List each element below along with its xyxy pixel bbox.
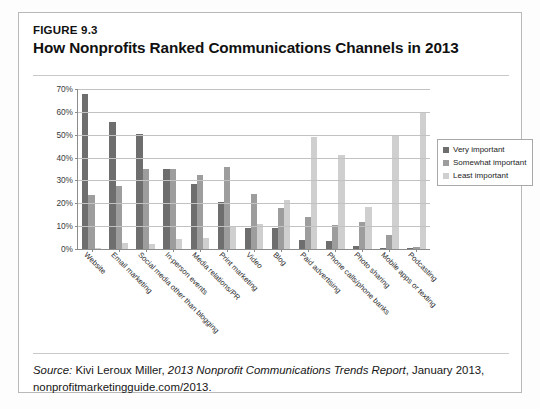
bar-group	[213, 89, 240, 249]
bar-group	[132, 89, 159, 249]
bar-group	[376, 89, 403, 249]
source-author: Kivi Leroux Miller,	[72, 364, 168, 376]
legend-item-label: Very important	[453, 145, 505, 154]
bar-groups	[78, 89, 430, 249]
bar	[311, 137, 317, 249]
bar	[230, 227, 236, 249]
bar-group	[295, 89, 322, 249]
chart-container: 0%10%20%30%40%50%60%70% WebsiteEmail mar…	[33, 79, 509, 349]
source-label: Source:	[33, 364, 72, 376]
source-divider	[33, 353, 509, 354]
bar-group	[78, 89, 105, 249]
bar	[95, 248, 101, 249]
gridline	[78, 112, 430, 113]
x-axis-label: Video	[245, 251, 264, 270]
x-axis-labels: WebsiteEmail marketingSocial media other…	[77, 251, 429, 347]
bar-group	[268, 89, 295, 249]
bar-group	[240, 89, 267, 249]
header-divider	[33, 75, 509, 76]
y-axis-tick-mark	[75, 158, 78, 159]
y-axis-tick-label: 60%	[56, 107, 73, 117]
x-axis-label: Blog	[272, 251, 288, 267]
x-axis-label: Media relations/PR	[190, 251, 241, 302]
y-axis-tick-mark	[75, 203, 78, 204]
bar	[284, 200, 290, 249]
y-axis-tick-label: 30%	[56, 175, 73, 185]
y-axis-tick-label: 70%	[56, 84, 73, 94]
legend-swatch-icon	[443, 173, 449, 179]
y-axis-tick-mark	[75, 135, 78, 136]
legend-item: Least important	[443, 171, 526, 180]
legend-swatch-icon	[443, 160, 449, 166]
y-axis-tick-label: 10%	[56, 221, 73, 231]
gridline	[78, 135, 430, 136]
bar	[116, 186, 122, 249]
y-axis-tick-label: 0%	[61, 244, 73, 254]
legend-swatch-icon	[443, 147, 449, 153]
y-axis-tick-mark	[75, 249, 78, 250]
legend-item: Somewhat important	[443, 158, 526, 167]
y-axis-tick-label: 20%	[56, 198, 73, 208]
bar-group	[105, 89, 132, 249]
chart-legend: Very importantSomewhat importantLeast im…	[437, 139, 533, 186]
gridline	[78, 180, 430, 181]
bar-group	[349, 89, 376, 249]
figure-number: FIGURE 9.3	[33, 24, 507, 37]
source-report-title: 2013 Nonprofit Communications Trends Rep…	[168, 364, 406, 376]
gridline	[78, 89, 430, 90]
bar	[176, 239, 182, 249]
source-note: Source: Kivi Leroux Miller, 2013 Nonprof…	[33, 362, 503, 395]
bar-group	[159, 89, 186, 249]
gridline	[78, 203, 430, 204]
legend-item-label: Somewhat important	[453, 158, 526, 167]
bar	[392, 136, 398, 249]
gridline	[78, 158, 430, 159]
x-axis-label: Website	[82, 251, 107, 276]
y-axis-tick-mark	[75, 226, 78, 227]
bar-group	[186, 89, 213, 249]
gridline	[78, 226, 430, 227]
legend-item: Very important	[443, 145, 526, 154]
legend-item-label: Least important	[453, 171, 508, 180]
bar	[338, 155, 344, 249]
y-axis-tick-mark	[75, 89, 78, 90]
bar	[122, 243, 128, 249]
bar	[203, 238, 209, 249]
y-axis-tick-mark	[75, 180, 78, 181]
figure-title: How Nonprofits Ranked Communications Cha…	[33, 39, 507, 57]
bar-group	[322, 89, 349, 249]
bar	[365, 207, 371, 249]
figure-page: FIGURE 9.3 How Nonprofits Ranked Communi…	[0, 0, 540, 409]
y-axis-tick-label: 50%	[56, 130, 73, 140]
y-axis-tick-label: 40%	[56, 153, 73, 163]
plot-area: 0%10%20%30%40%50%60%70%	[77, 89, 430, 250]
figure-frame: FIGURE 9.3 How Nonprofits Ranked Communi…	[18, 12, 522, 393]
bar	[149, 244, 155, 249]
bar	[257, 224, 263, 249]
bar-group	[403, 89, 430, 249]
figure-header: FIGURE 9.3 How Nonprofits Ranked Communi…	[19, 13, 521, 64]
y-axis-tick-mark	[75, 112, 78, 113]
